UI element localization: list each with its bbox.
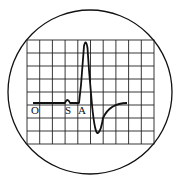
label-s: S [65,104,71,116]
waveform-trace [33,42,127,133]
label-o: O [31,104,39,116]
oscilloscope-diagram: O S A [0,0,182,187]
label-a: A [78,104,86,116]
